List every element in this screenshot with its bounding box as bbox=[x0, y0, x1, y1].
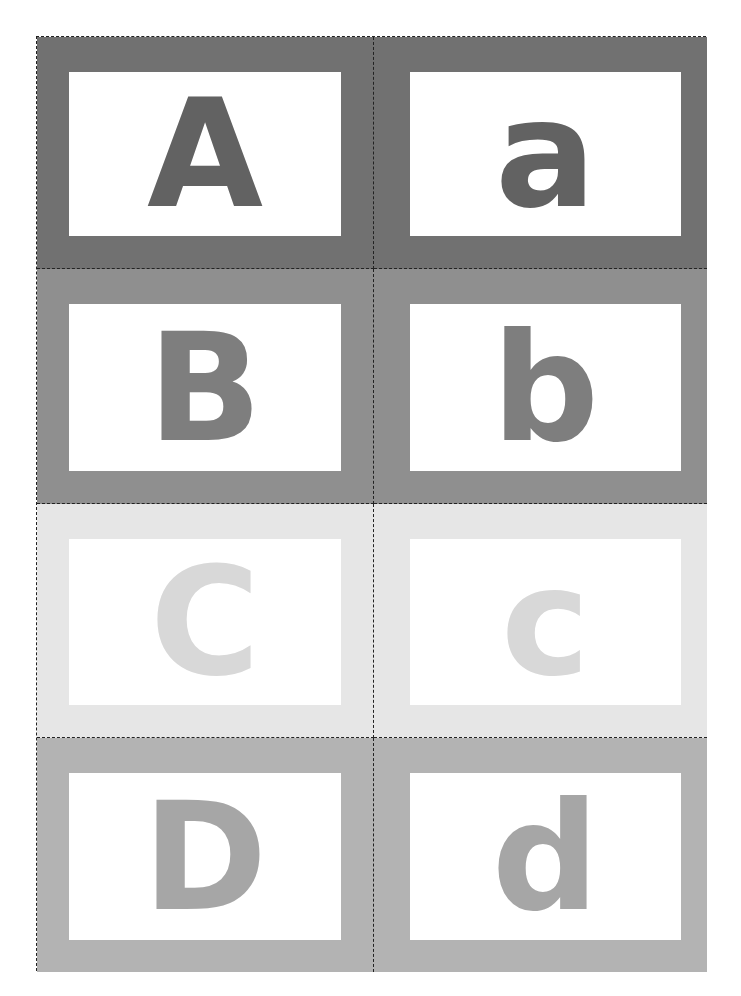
card-letter: B bbox=[148, 313, 262, 463]
card-letter: d bbox=[492, 782, 599, 932]
card-C: C bbox=[37, 504, 374, 738]
card-b: b bbox=[374, 269, 707, 504]
flash-card-sheet: A a B b C c D d bbox=[36, 36, 706, 971]
card-letter: b bbox=[492, 313, 599, 463]
card-face: d bbox=[410, 773, 681, 940]
card-letter: c bbox=[501, 547, 590, 697]
card-face: a bbox=[410, 72, 681, 236]
card-a: a bbox=[374, 37, 707, 269]
card-letter: A bbox=[147, 79, 263, 229]
card-face: A bbox=[69, 72, 341, 236]
card-c: c bbox=[374, 504, 707, 738]
card-letter: D bbox=[143, 782, 268, 932]
card-d: d bbox=[374, 738, 707, 972]
card-letter: C bbox=[150, 547, 260, 697]
card-B: B bbox=[37, 269, 374, 504]
card-face: D bbox=[69, 773, 341, 940]
card-face: b bbox=[410, 304, 681, 471]
card-face: B bbox=[69, 304, 341, 471]
card-D: D bbox=[37, 738, 374, 972]
card-letter: a bbox=[495, 79, 596, 229]
card-A: A bbox=[37, 37, 374, 269]
card-face: C bbox=[69, 539, 341, 705]
card-face: c bbox=[410, 539, 681, 705]
